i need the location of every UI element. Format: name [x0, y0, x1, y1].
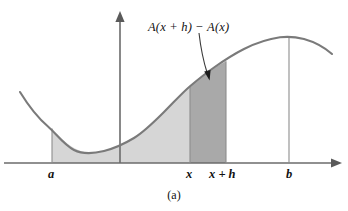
- annotation-label: A(x + h) − A(x): [148, 21, 229, 34]
- tick-label-b: b: [286, 168, 292, 181]
- tick-label-x-plus-h: x + h: [209, 168, 236, 181]
- tick-label-a: a: [48, 168, 54, 181]
- annotation-leader-line: [199, 33, 207, 73]
- figure-caption: (a): [0, 188, 348, 203]
- area-region-light: [52, 86, 190, 163]
- tick-label-x: x: [186, 168, 192, 181]
- y-axis-arrowhead: [115, 11, 124, 22]
- figure-container: A(x + h) − A(x) a x x + h b (a): [0, 0, 348, 211]
- x-axis-arrowhead: [331, 158, 342, 167]
